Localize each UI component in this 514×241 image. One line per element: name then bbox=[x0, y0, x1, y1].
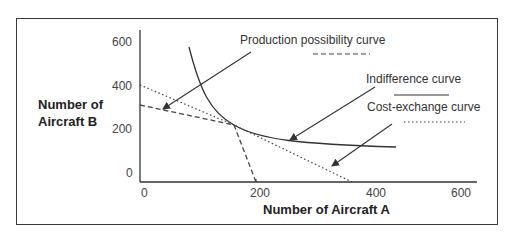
y-tick-200: 200 bbox=[112, 122, 132, 136]
indifference-curve bbox=[189, 47, 396, 147]
y-tick-400: 400 bbox=[112, 79, 132, 93]
x-tick-0: 0 bbox=[141, 186, 148, 200]
x-tick-600: 600 bbox=[451, 186, 471, 200]
y-axis-title-line1: Number of bbox=[38, 96, 103, 113]
ppc-label: Production possibility curve bbox=[240, 33, 385, 47]
indifference-label: Indifference curve bbox=[366, 72, 461, 86]
x-axis-title: Number of Aircraft A bbox=[263, 202, 390, 217]
indifference-arrow bbox=[290, 87, 375, 140]
y-axis-title-line2: Aircraft B bbox=[38, 113, 103, 130]
y-tick-600: 600 bbox=[112, 35, 132, 49]
x-tick-200: 200 bbox=[250, 186, 270, 200]
y-tick-0: 0 bbox=[126, 166, 133, 180]
cost-exchange-label: Cost-exchange curve bbox=[367, 100, 480, 114]
ppc-arrow bbox=[163, 52, 251, 109]
x-tick-400: 400 bbox=[366, 186, 386, 200]
cost-exchange-curve bbox=[140, 85, 352, 182]
production-possibility-curve bbox=[140, 105, 256, 182]
y-axis-title: Number of Aircraft B bbox=[38, 96, 103, 130]
